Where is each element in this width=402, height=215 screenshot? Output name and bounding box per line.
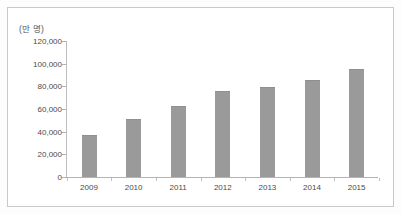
y-tick-mark: [62, 86, 66, 87]
y-tick-label-text: 0: [18, 173, 62, 182]
x-tick-mark: [111, 178, 112, 181]
bar: [126, 119, 141, 177]
x-tick-mark: [156, 178, 157, 181]
chart-figure: (만 명) 020,00040,00060,00080,000100,00012…: [0, 0, 402, 215]
y-tick-mark: [62, 132, 66, 133]
plot-area: 020,00040,00060,00080,000100,000120,000 …: [0, 0, 402, 215]
x-tick-label: 2010: [111, 183, 157, 192]
x-tick-mark: [334, 178, 335, 181]
bar: [260, 87, 275, 177]
x-tick-label: 2013: [244, 183, 290, 192]
x-tick-label: 2012: [200, 183, 246, 192]
bar: [82, 135, 97, 177]
bar: [349, 69, 364, 177]
bar: [171, 106, 186, 177]
y-tick-label-text: 20,000: [18, 150, 62, 159]
y-tick-mark: [62, 177, 66, 178]
x-tick-mark: [379, 178, 380, 181]
x-tick-mark: [201, 178, 202, 181]
bar: [215, 91, 230, 177]
y-axis-line: [66, 41, 67, 178]
y-tick-mark: [62, 64, 66, 65]
y-tick-mark: [62, 109, 66, 110]
y-tick-mark: [62, 154, 66, 155]
y-tick-label-text: 120,000: [18, 37, 62, 46]
x-axis-line: [66, 177, 378, 178]
y-tick-label-text: 60,000: [18, 105, 62, 114]
x-tick-mark: [245, 178, 246, 181]
y-tick-label-text: 100,000: [18, 59, 62, 68]
x-tick-label: 2011: [155, 183, 201, 192]
y-tick-label-text: 80,000: [18, 82, 62, 91]
x-tick-label: 2015: [334, 183, 380, 192]
x-tick-label: 2009: [66, 183, 112, 192]
y-tick-mark: [62, 41, 66, 42]
y-tick-label-text: 40,000: [18, 127, 62, 136]
bar: [305, 80, 320, 177]
x-tick-mark: [67, 178, 68, 181]
x-tick-label: 2014: [289, 183, 335, 192]
x-tick-mark: [290, 178, 291, 181]
